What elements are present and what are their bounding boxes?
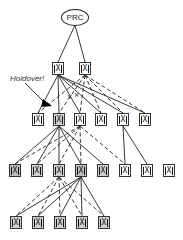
level4-node-3: X: [54, 216, 66, 229]
backup-link: [16, 177, 59, 216]
clock-node-icon: X: [119, 116, 127, 124]
level3-node-4: X: [75, 164, 87, 177]
clock-node-icon: X: [81, 65, 89, 73]
clock-node-icon: X: [77, 167, 85, 175]
clock-node-icon: X: [99, 167, 107, 175]
clock-node-icon: X: [121, 167, 129, 175]
clock-node-icon: X: [76, 116, 84, 124]
level4-node-2: X: [32, 216, 44, 229]
level1-node-2: X: [79, 62, 91, 75]
clock-node-icon: X: [34, 116, 42, 124]
prc-label: PRC: [67, 13, 84, 22]
clock-node-icon: X: [12, 219, 20, 227]
backup-link: [38, 177, 59, 216]
broken-link-icon: ×: [67, 93, 73, 101]
level2-node-4: X: [95, 113, 107, 126]
holdover-annotation: Holdover!: [10, 74, 44, 83]
level3-node-5: X: [97, 164, 109, 177]
clock-node-icon: X: [78, 219, 86, 227]
level2-node-5: X: [117, 113, 129, 126]
broken-link-icon: ×: [74, 91, 80, 99]
clock-node-icon: X: [165, 167, 173, 175]
clock-node-icon: X: [11, 167, 19, 175]
level4-node-4: X: [76, 216, 88, 229]
primary-link: [37, 126, 59, 164]
primary-link: [75, 25, 85, 62]
clock-node-icon: X: [141, 116, 149, 124]
backup-link: [85, 75, 101, 113]
level3-node-7: X: [141, 164, 153, 177]
clock-node-icon: X: [143, 167, 151, 175]
primary-link: [59, 126, 103, 164]
level3-node-1: X: [9, 164, 21, 177]
edge-layer: ××: [0, 0, 183, 240]
clock-node-icon: X: [55, 167, 63, 175]
clock-node-icon: X: [33, 167, 41, 175]
backup-link: [37, 126, 80, 164]
level3-node-8: X: [163, 164, 175, 177]
level3-node-2: X: [31, 164, 43, 177]
level2-node-6: X: [139, 113, 151, 126]
level3-node-3: X: [53, 164, 65, 177]
level4-node-1: X: [10, 216, 22, 229]
level2-node-2: X: [53, 113, 65, 126]
level2-node-3: X: [74, 113, 86, 126]
clock-node-icon: X: [56, 219, 64, 227]
clock-node-icon: X: [54, 65, 62, 73]
clock-node-icon: X: [34, 219, 42, 227]
backup-link: [80, 126, 125, 164]
primary-link: [58, 25, 75, 62]
clock-node-icon: X: [97, 116, 105, 124]
prc-root-node: PRC: [61, 9, 89, 26]
holdover-pointer-line: [25, 83, 45, 103]
level1-node-1: X: [52, 62, 64, 75]
primary-link: [123, 126, 125, 164]
clock-sync-hierarchy-diagram: ×× PRC Holdover! X X X X X X X X X X X X…: [0, 0, 183, 240]
level4-node-5: X: [98, 216, 110, 229]
level3-node-6: X: [119, 164, 131, 177]
primary-link: [81, 177, 104, 216]
primary-link: [123, 126, 147, 164]
level2-node-1: X: [32, 113, 44, 126]
clock-node-icon: X: [100, 219, 108, 227]
primary-link: [58, 75, 59, 113]
primary-link: [15, 126, 59, 164]
clock-node-icon: X: [55, 116, 63, 124]
